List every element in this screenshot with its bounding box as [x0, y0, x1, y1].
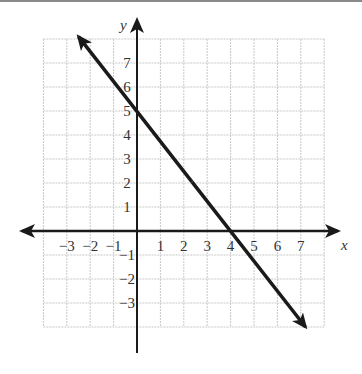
- y-tick-label: 5: [123, 103, 131, 119]
- y-tick-label: 7: [123, 55, 131, 71]
- x-tick-label: −3: [59, 238, 75, 254]
- x-tick-label: 3: [203, 238, 211, 254]
- y-tick-label: −1: [119, 247, 135, 263]
- y-tick-label: 4: [123, 127, 131, 143]
- y-tick-label: −3: [119, 295, 135, 311]
- x-axis-label: x: [340, 237, 348, 253]
- y-tick-label: 1: [123, 199, 131, 215]
- x-tick-label: 5: [250, 238, 258, 254]
- line-upper-segment: [79, 37, 192, 182]
- y-tick-label: −2: [119, 271, 135, 287]
- coordinate-plane: −3−2−112345677654321−1−2−3 x y: [0, 0, 362, 374]
- x-tick-label: 1: [157, 238, 165, 254]
- y-tick-label: 3: [123, 151, 131, 167]
- x-tick-label: 4: [227, 238, 235, 254]
- line-lower-segment: [192, 182, 305, 327]
- x-tick-label: 2: [180, 238, 188, 254]
- grid: [43, 39, 324, 327]
- x-tick-label: 6: [274, 238, 282, 254]
- x-tick-label: 7: [297, 238, 305, 254]
- y-axis-label: y: [118, 17, 127, 33]
- data-line: [79, 37, 306, 327]
- x-tick-label: −2: [82, 238, 98, 254]
- y-tick-label: 2: [123, 175, 131, 191]
